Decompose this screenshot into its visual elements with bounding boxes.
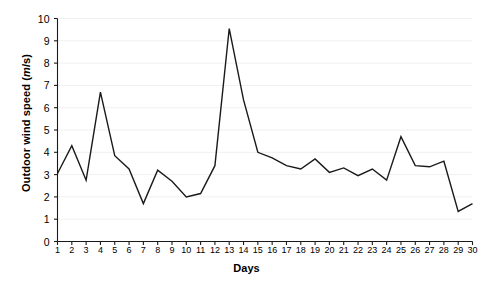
series-line [58, 29, 473, 212]
data-series-group [58, 29, 473, 212]
wind-speed-line-chart: Outdoor wind speed (m/s) Days 0123456789… [0, 0, 493, 297]
plot-area [0, 0, 493, 297]
gridlines [58, 19, 473, 242]
